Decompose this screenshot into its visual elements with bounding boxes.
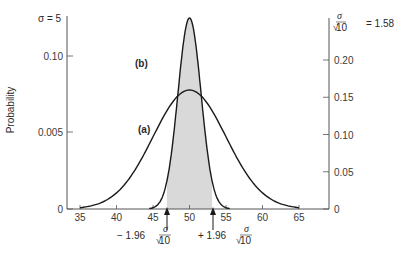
right-header: σ √ 10 = 1.58 bbox=[333, 10, 395, 33]
shaded-interval bbox=[167, 18, 212, 209]
svg-text:10: 10 bbox=[240, 235, 252, 246]
left-ticks: 00.0050.10 bbox=[38, 51, 73, 215]
y-axis-label: Probability bbox=[5, 87, 16, 134]
right-tick-label: 0.15 bbox=[334, 92, 354, 103]
right-tick-label: 0.05 bbox=[334, 167, 354, 178]
x-tick-label: 50 bbox=[184, 212, 196, 223]
ten-label: 10 bbox=[336, 22, 348, 33]
x-tick-label: 40 bbox=[111, 212, 123, 223]
sigma-left-label: σ = 5 bbox=[38, 13, 62, 24]
x-tick-label: 60 bbox=[257, 212, 269, 223]
sigma-symbol: σ bbox=[337, 10, 343, 21]
curve-a-label: (a) bbox=[138, 124, 150, 135]
x-ticks: 35404550556065 bbox=[74, 205, 305, 223]
right-tick-label: 0 bbox=[334, 204, 340, 215]
right-tick-label: 0.10 bbox=[334, 130, 354, 141]
right-value: = 1.58 bbox=[366, 18, 395, 29]
curve-b-label: (b) bbox=[135, 58, 148, 69]
svg-text:+ 1.96: + 1.96 bbox=[198, 230, 227, 241]
svg-text:10: 10 bbox=[159, 235, 171, 246]
svg-text:σ: σ bbox=[244, 223, 250, 234]
left-tick-label: 0.005 bbox=[38, 127, 63, 138]
x-tick-label: 35 bbox=[74, 212, 86, 223]
right-ticks: 00.050.100.150.20 bbox=[323, 55, 354, 215]
left-tick-label: 0.10 bbox=[44, 51, 64, 62]
upper-bound-label: + 1.96 σ √ 10 bbox=[198, 223, 252, 246]
x-tick-label: 65 bbox=[293, 212, 305, 223]
right-tick-label: 0.20 bbox=[334, 55, 354, 66]
upper-bound-arrow bbox=[210, 207, 216, 230]
svg-text:σ: σ bbox=[163, 223, 169, 234]
x-tick-label: 55 bbox=[220, 212, 232, 223]
chart-canvas: 35404550556065 00.0050.10 00.050.100.150… bbox=[0, 0, 410, 256]
x-tick-label: 45 bbox=[147, 212, 159, 223]
lower-bound-label: − 1.96 σ √ 10 bbox=[117, 223, 171, 246]
svg-text:− 1.96: − 1.96 bbox=[117, 230, 146, 241]
left-tick-label: 0 bbox=[57, 204, 63, 215]
